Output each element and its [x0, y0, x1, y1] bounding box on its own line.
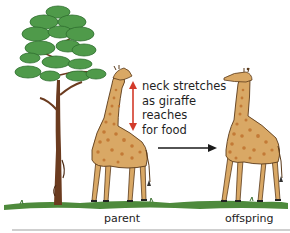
parent-label: parent: [104, 212, 140, 225]
annotation-line: neck stretches: [142, 79, 226, 94]
bottom-divider: [12, 229, 290, 231]
stretch-double-arrow: [129, 81, 137, 131]
stretch-annotation: neck stretches as giraffe reaches for fo…: [142, 79, 226, 137]
offspring-label: offspring: [225, 212, 274, 225]
annotation-line: as giraffe: [142, 94, 226, 109]
inheritance-arrow: [158, 144, 217, 152]
annotation-line: for food: [142, 123, 226, 138]
annotation-line: reaches: [142, 108, 226, 123]
pine-tree-illustration: [15, 6, 106, 205]
offspring-giraffe-illustration: [221, 68, 283, 202]
